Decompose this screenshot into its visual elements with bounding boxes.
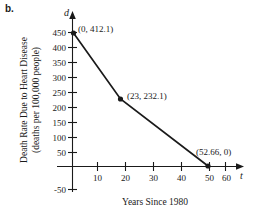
y-axis-arrowhead — [69, 11, 76, 19]
point-annotation: (23, 232.1) — [127, 91, 167, 101]
y-tick-labels: -50 50 100 150 200 250 300 350 400 450 — [53, 28, 67, 195]
x-tick-label: 50 — [205, 173, 215, 183]
y-tick-label: 50 — [57, 148, 67, 158]
y-tick-label: 450 — [53, 28, 67, 38]
x-axis-variable: t — [240, 170, 243, 181]
y-tick-label: -50 — [54, 185, 66, 195]
x-tick-label: 40 — [177, 173, 187, 183]
x-axis-title: Years Since 1980 — [122, 197, 188, 207]
x-tick-labels: 10 20 30 40 50 60 — [93, 173, 232, 183]
plot-area: d t -50 50 100 150 200 250 — [0, 0, 253, 212]
x-tick-label: 10 — [93, 173, 103, 183]
data-point-marker — [205, 163, 210, 168]
y-tick-label: 150 — [53, 118, 67, 128]
chart-figure: b. d t -50 50 — [0, 0, 253, 212]
y-tick-label: 400 — [53, 43, 67, 53]
y-tick-label: 100 — [53, 133, 67, 143]
x-tick-label: 60 — [222, 173, 232, 183]
x-axis-arrowhead — [236, 163, 244, 170]
y-axis-title-line2: (deaths per 100,000 people) — [31, 47, 42, 153]
y-tick-label: 350 — [53, 58, 67, 68]
point-annotations: (0, 412.1) (23, 232.1) (52.66, 0) — [78, 24, 231, 157]
data-point-marker — [71, 30, 76, 35]
y-axis-title-line1: Death Rate Due to Heart Disease — [19, 37, 29, 163]
y-tick-label: 250 — [53, 88, 67, 98]
y-tick-label: 300 — [53, 73, 67, 83]
data-point-marker — [118, 96, 123, 101]
x-tick-label: 30 — [149, 173, 159, 183]
y-tick-label: 200 — [53, 103, 67, 113]
y-axis-variable: d — [64, 7, 70, 18]
point-annotation: (52.66, 0) — [196, 147, 231, 157]
x-tick-label: 20 — [121, 173, 131, 183]
point-annotation: (0, 412.1) — [78, 24, 113, 34]
